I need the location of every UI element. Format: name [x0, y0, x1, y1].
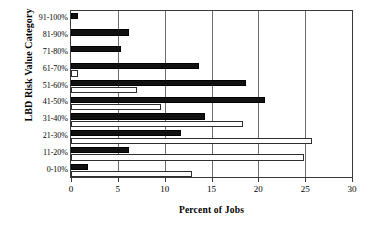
bar-group [71, 162, 352, 179]
bar-group [71, 145, 352, 162]
bar-black [71, 29, 129, 35]
y-tick-label: 11-20% [14, 149, 68, 157]
bar-group [71, 28, 352, 45]
bar-black [71, 130, 181, 136]
y-tick-label: 71-80% [14, 48, 68, 56]
x-tick [118, 178, 119, 182]
x-tick-label: 0 [56, 184, 86, 195]
bar-group [71, 112, 352, 129]
bar-black [71, 63, 199, 69]
x-tick [258, 178, 259, 182]
bar-group [71, 11, 352, 28]
x-tick-label: 20 [243, 184, 273, 195]
x-tick-label: 15 [197, 184, 227, 195]
y-tick-label: 0-10% [14, 166, 68, 174]
bar-white [71, 121, 243, 127]
bar-group [71, 95, 352, 112]
y-tick-label: 91-100% [14, 14, 68, 22]
y-tick-label: 41-50% [14, 98, 68, 106]
bar-black [71, 97, 265, 103]
bar-chart: LBD Risk Value Category 91-100%81-90%71-… [0, 0, 377, 240]
y-tick-label: 61-70% [14, 65, 68, 73]
bar-group [71, 61, 352, 78]
bar-white [71, 87, 137, 93]
x-tick-label: 25 [290, 184, 320, 195]
x-tick-label: 30 [337, 184, 367, 195]
x-tick [352, 178, 353, 182]
y-tick-label: 31-40% [14, 115, 68, 123]
bar-white [71, 104, 161, 110]
bar-black [71, 46, 121, 52]
bar-white [71, 171, 192, 177]
x-axis-tick-labels: 051015202530 [70, 184, 353, 196]
bar-black [71, 80, 246, 86]
bar-white [71, 70, 78, 76]
bar-black [71, 113, 205, 119]
x-tick [165, 178, 166, 182]
y-axis-tick-labels: 91-100%81-90%71-80%61-70%51-60%41-50%31-… [14, 10, 68, 178]
bar-group [71, 78, 352, 95]
x-tick [71, 178, 72, 182]
x-tick [305, 178, 306, 182]
y-tick-label: 81-90% [14, 31, 68, 39]
bar-white [71, 138, 312, 144]
bar-black [71, 147, 129, 153]
x-tick [212, 178, 213, 182]
y-tick-label: 21-30% [14, 132, 68, 140]
bar-group [71, 129, 352, 146]
bar-black [71, 164, 88, 170]
x-tick-label: 5 [103, 184, 133, 195]
x-axis-ticks [70, 178, 353, 183]
bar-white [71, 154, 304, 160]
plot-area [70, 10, 353, 178]
bar-black [71, 13, 78, 19]
x-tick-label: 10 [150, 184, 180, 195]
y-tick-label: 51-60% [14, 82, 68, 90]
x-axis-title: Percent of Jobs [70, 205, 353, 215]
bar-group [71, 45, 352, 62]
